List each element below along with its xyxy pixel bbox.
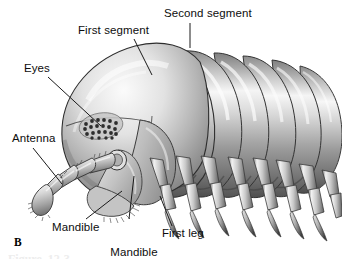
- label-second-segment: Second segment: [164, 7, 252, 20]
- figure-panel-b: First segment Second segment Eyes Antenn…: [0, 0, 342, 259]
- label-first-segment: First segment: [78, 24, 149, 37]
- label-eyes: Eyes: [24, 62, 50, 75]
- label-mandible-base: Mandible base: [108, 221, 160, 259]
- label-mandible: Mandible: [52, 221, 99, 234]
- label-mandible-base-line1: Mandible: [108, 246, 160, 259]
- leader-antenna: [33, 148, 62, 184]
- label-antenna: Antenna: [12, 132, 56, 145]
- panel-letter-b: B: [14, 236, 22, 248]
- leg-8: [322, 170, 342, 218]
- figure-caption-cropped: Figure 12-3: [8, 252, 70, 259]
- label-first-leg: First leg: [162, 227, 204, 240]
